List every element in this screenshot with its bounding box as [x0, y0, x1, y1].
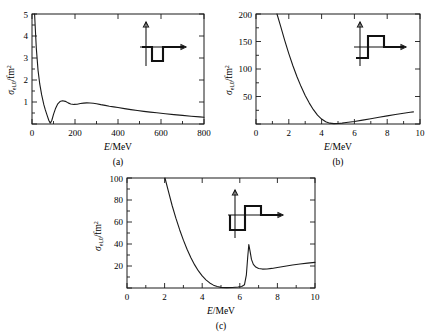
- y-sup-b: 2: [224, 65, 230, 68]
- x-rest-c: /MeV: [213, 306, 235, 316]
- panel-c: σel,0/fm2: [85, 166, 355, 334]
- panel-a-y-tick-labels: 1 2 3 4 5: [24, 10, 29, 107]
- panel-c-frame: [127, 178, 315, 288]
- xtick-b-2: 4: [319, 128, 324, 138]
- y-rest-b: /fm: [224, 68, 234, 82]
- xtick-c-2: 4: [200, 292, 205, 302]
- panel-c-y-tick-labels: 20 40 60 80 100: [110, 174, 124, 271]
- xtick-a-4: 800: [197, 128, 211, 138]
- y-rest-c: /fm: [93, 224, 103, 238]
- xtick-c-0: 0: [125, 292, 130, 302]
- xtick-c-5: 10: [311, 292, 321, 302]
- ytick-c-2: 60: [114, 217, 124, 227]
- panel-b-canvas: σel,0/fm2 50: [216, 0, 434, 170]
- xtick-c-3: 6: [238, 292, 243, 302]
- panel-b-frame: [256, 14, 420, 124]
- xtick-b-5: 10: [416, 128, 426, 138]
- panel-b-y-ticks: [256, 14, 420, 124]
- xtick-b-3: 6: [352, 128, 357, 138]
- ytick-c-0: 20: [114, 261, 124, 271]
- ytick-a-0: 1: [24, 97, 29, 107]
- panel-c-curve: [165, 178, 315, 288]
- ytick-a-4: 5: [24, 10, 29, 20]
- ytick-c-3: 80: [114, 195, 124, 205]
- inset-well-plus-high-barrier-potential: [228, 190, 283, 238]
- ytick-b-3: 200: [239, 10, 253, 20]
- panel-a-x-axis-label: E/MeV: [103, 142, 132, 152]
- y-sub-c: el,0: [98, 237, 104, 246]
- svg-text:σel,0/fm2: σel,0/fm2: [6, 65, 17, 95]
- panel-b-y-tick-labels: 50 100 150 200: [239, 10, 253, 102]
- xtick-c-1: 2: [162, 292, 167, 302]
- panel-a: σel,0/fm2: [0, 0, 218, 170]
- panel-a-curve-data: [35, 14, 204, 123]
- xtick-a-2: 400: [111, 128, 125, 138]
- panel-c-caption: (c): [216, 321, 227, 332]
- ytick-c-1: 40: [114, 239, 124, 249]
- xtick-b-1: 2: [287, 128, 292, 138]
- svg-text:σel,0/fm2: σel,0/fm2: [224, 65, 235, 95]
- xtick-b-4: 8: [385, 128, 390, 138]
- y-sup-c: 2: [93, 221, 99, 224]
- y-rest-a: /fm: [6, 68, 16, 82]
- ytick-b-0: 50: [243, 92, 253, 102]
- xtick-c-4: 8: [275, 292, 280, 302]
- ytick-c-4: 100: [110, 174, 124, 184]
- panel-a-y-axis-label: σel,0/fm2: [6, 65, 17, 95]
- ytick-a-1: 2: [24, 75, 29, 85]
- x-rest-a: /MeV: [110, 142, 132, 152]
- panel-c-x-axis-label: E/MeV: [206, 306, 235, 316]
- xtick-a-1: 200: [68, 128, 82, 138]
- panel-b: σel,0/fm2 50: [216, 0, 434, 170]
- ytick-a-2: 3: [24, 53, 29, 63]
- ytick-a-3: 4: [24, 31, 29, 41]
- inset-well-plus-barrier-potential: [354, 22, 406, 66]
- y-sub-a: el,0: [11, 81, 17, 90]
- panel-c-x-ticks: [127, 178, 315, 288]
- panel-c-y-axis-label: σel,0/fm2: [93, 221, 104, 251]
- panel-b-y-axis-label: σel,0/fm2: [224, 65, 235, 95]
- panel-a-x-tick-labels: 0 200 400 600 800: [30, 128, 212, 138]
- inset-square-well-potential: [140, 22, 186, 66]
- panel-b-curve: [277, 14, 413, 124]
- x-rest-b: /MeV: [330, 142, 352, 152]
- panel-c-canvas: σel,0/fm2: [85, 166, 355, 334]
- xtick-a-3: 600: [154, 128, 168, 138]
- figure-root: σel,0/fm2: [0, 0, 434, 334]
- panel-b-x-axis-label: E/MeV: [323, 142, 352, 152]
- svg-text:σel,0/fm2: σel,0/fm2: [93, 221, 104, 251]
- ytick-b-1: 100: [239, 64, 253, 74]
- panel-c-x-tick-labels: 0 2 4 6 8 10: [125, 292, 320, 302]
- panel-b-x-ticks: [256, 14, 420, 124]
- xtick-b-0: 0: [254, 128, 259, 138]
- panel-b-x-tick-labels: 0 2 4 6 8 10: [254, 128, 425, 138]
- panel-c-y-ticks: [127, 178, 315, 288]
- y-sup-a: 2: [6, 65, 12, 68]
- panel-a-canvas: σel,0/fm2: [0, 0, 218, 170]
- ytick-b-2: 150: [239, 37, 253, 47]
- y-sub-b: el,0: [229, 81, 235, 90]
- xtick-a-0: 0: [30, 128, 35, 138]
